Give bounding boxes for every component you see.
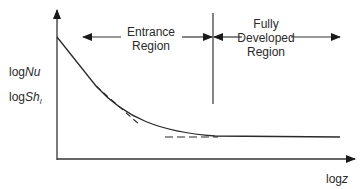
diagram: Entrance Region Fully Developed Region l… (0, 0, 361, 189)
y-axis-label-nu: logNu (9, 65, 41, 79)
fully-developed-label-line2: Developed (237, 31, 294, 45)
entrance-region-label-line2: Region (132, 39, 170, 53)
x-axis-label-logz: logz (326, 172, 348, 186)
fully-developed-label-line3: Region (247, 45, 285, 59)
nu-sh-curve (57, 37, 340, 137)
entrance-asymptote-dashed (96, 86, 141, 126)
fully-developed-label-line1: Fully (253, 17, 278, 31)
y-axis-label-sh: logShl (9, 90, 42, 106)
entrance-region-label-line1: Entrance (127, 25, 175, 39)
